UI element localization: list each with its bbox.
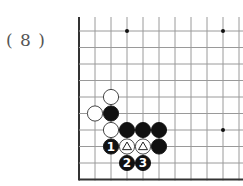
- black-stone-icon: [151, 122, 166, 137]
- white-stone-icon: [103, 89, 118, 104]
- black-stone-icon: [119, 122, 134, 137]
- move-number: 1: [107, 140, 115, 154]
- star-point-icon: [125, 29, 129, 33]
- move-number: 3: [139, 156, 147, 170]
- star-point-icon: [221, 128, 225, 132]
- go-board: 123: [0, 0, 243, 186]
- black-stone-icon: [135, 122, 150, 137]
- move-number: 2: [123, 156, 131, 170]
- black-stone-icon: [151, 139, 166, 154]
- white-stone-icon: [87, 106, 102, 121]
- star-point-icon: [221, 29, 225, 33]
- white-stone-icon: [103, 122, 118, 137]
- black-stone-icon: [103, 106, 118, 121]
